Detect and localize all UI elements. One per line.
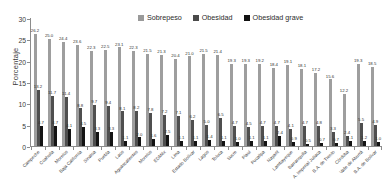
bar-value-label: 1.6 (150, 134, 156, 138)
bar-obesidad-grave: 1.2 (363, 141, 366, 146)
bar-obesidad-grave: 1.6 (152, 139, 155, 146)
bar-value-label: 3.3 (94, 127, 100, 131)
bar-value-label: 1.4 (207, 135, 213, 139)
bar-value-label: 4.7 (260, 121, 266, 125)
bar-value-label: 4.7 (232, 121, 238, 125)
x-tick-label: Toluca (211, 150, 224, 163)
bar-value-label: 23.1 (115, 43, 123, 47)
bar-value-label: 1.1 (221, 136, 227, 140)
bar-value-label: 21.0 (185, 52, 193, 56)
bar-value-label: 20.4 (171, 54, 179, 58)
bar-group: 19.34.71.0 (228, 18, 242, 146)
bar-value-label: 8.1 (119, 107, 125, 111)
bar-obesidad-grave: 3.3 (110, 132, 113, 146)
bar-group: 18.44.72.4 (270, 18, 284, 146)
bar-value-label: 9.4 (105, 101, 111, 105)
bar-value-label: 4.7 (274, 121, 280, 125)
bar-value-label: 19.3 (227, 59, 235, 63)
bar-group: 18.54.91.0 (368, 18, 382, 146)
bar-value-label: 4.8 (316, 121, 322, 125)
bar-obesidad-grave: 0.5 (306, 144, 309, 146)
bar-obesidad-grave: 4.7 (54, 126, 57, 146)
bar-value-label: 12.2 (340, 89, 348, 93)
bar-value-label: 19.3 (242, 59, 250, 63)
bar-value-label: 18.4 (270, 63, 278, 67)
bar-group: 25.011.74.7 (45, 18, 59, 146)
x-label-cell: Coahuila (45, 150, 59, 187)
y-tick-label: 30 (11, 16, 26, 23)
bar-obesidad-grave: 4.5 (82, 127, 85, 146)
bar-value-label: 1.2 (361, 136, 367, 140)
bar-group: 19.35.51.2 (354, 18, 368, 146)
y-tick-label: 25 (11, 37, 26, 44)
bar-value-label: 18.1 (298, 64, 306, 68)
bar-value-label: 21.4 (213, 50, 221, 54)
bar-value-label: 1.1 (263, 136, 269, 140)
bar-group: 24.411.44.1 (59, 18, 73, 146)
bar-group: 21.06.21.1 (186, 18, 200, 146)
x-label-cell: B.A. de Trento (326, 150, 340, 187)
x-axis-category-labels: CampecheCoahuilaMorelosBaja CaliforniaSi… (31, 150, 382, 187)
bar-value-label: 22.3 (87, 46, 95, 50)
bar-value-label: 8.2 (133, 106, 139, 110)
bar-group: 15.63.30.7 (326, 18, 340, 146)
bar-obesidad-grave: 4.7 (40, 126, 43, 146)
bar-obesidad-grave: 1.1 (124, 141, 127, 146)
y-tick-mark (27, 104, 30, 105)
bar-value-label: 5.5 (358, 118, 364, 122)
bar-obesidad-grave: 1.1 (194, 141, 197, 146)
bar-obesidad-grave: 1.0 (377, 142, 380, 146)
x-tick-label: Sucre (226, 150, 238, 162)
bar-value-label: 24.4 (59, 37, 67, 41)
bar-value-label: 1.1 (122, 136, 128, 140)
y-tick-mark (27, 19, 30, 20)
x-label-cell: B.A. de Bolívar (368, 150, 382, 187)
bar-value-label: 25.0 (45, 34, 53, 38)
bar-value-label: 21.3 (157, 50, 165, 54)
bar-obesidad-grave: 1.1 (349, 141, 352, 146)
bar-value-label: 7.8 (147, 108, 153, 112)
bar-obesidad-grave: 2.0 (138, 137, 141, 146)
bar-obesidad-grave: 2.5 (166, 135, 169, 146)
bar-value-label: 4.5 (246, 122, 252, 126)
bar-group: 21.46.51.1 (214, 18, 228, 146)
bar-obesidad-grave: 0.7 (335, 143, 338, 146)
bar-value-label: 1.1 (347, 136, 353, 140)
y-tick-mark (27, 62, 30, 63)
bar-value-label: 4.1 (288, 124, 294, 128)
bar-value-label: 13.2 (34, 85, 42, 89)
x-tick-label: Piauí (241, 150, 252, 161)
bar-obesidad-grave: 1.1 (264, 141, 267, 146)
bar-value-label: 9.7 (91, 100, 97, 104)
bar-value-label: 8.8 (77, 104, 83, 108)
bar-obesidad-grave: 1.1 (250, 141, 253, 146)
bar-obesidad-grave: 0.7 (320, 143, 323, 146)
bar-obesidad-grave: 1.0 (236, 142, 239, 146)
x-label-cell: Toluca (214, 150, 228, 187)
bar-value-label: 2.5 (164, 130, 170, 134)
bar-value-label: 5.0 (204, 120, 210, 124)
y-tick-mark (27, 40, 30, 41)
bar-value-label: 0.9 (291, 137, 297, 141)
bar-value-label: 21.5 (199, 49, 207, 53)
bar-value-label: 26.2 (31, 29, 39, 33)
bar-value-label: 1.1 (249, 136, 255, 140)
bar-value-label: 3.3 (330, 127, 336, 131)
y-tick-label: 10 (11, 101, 26, 108)
bar-value-label: 19.1 (284, 60, 292, 64)
bar-value-label: 6.2 (190, 115, 196, 119)
bar-group: 26.213.24.7 (31, 18, 45, 146)
bar-obesidad-grave: 0.9 (292, 142, 295, 146)
x-label-cell: Pucallpa (256, 150, 270, 187)
bar-value-label: 18.5 (368, 62, 376, 66)
x-label-cell: Sucre (228, 150, 242, 187)
bar-group: 12.22.41.1 (340, 18, 354, 146)
x-label-cell: Estado Bolívar (186, 150, 200, 187)
bar-group: 21.55.01.4 (200, 18, 214, 146)
bar-value-label: 0.7 (319, 138, 325, 142)
bar-group: 17.24.80.7 (312, 18, 326, 146)
y-tick-label: 15 (11, 80, 26, 87)
bar-value-label: 19.3 (354, 59, 362, 63)
bar-value-label: 7.1 (175, 111, 181, 115)
bar-group: 22.59.43.3 (101, 18, 115, 146)
